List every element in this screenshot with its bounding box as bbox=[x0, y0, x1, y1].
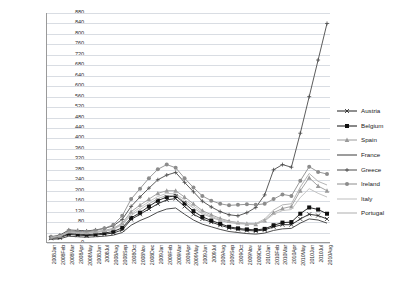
legend-label: Austria bbox=[358, 108, 380, 114]
legend-item-greece[interactable]: Greece bbox=[336, 162, 416, 177]
x-axis-tick-label: 2010Mar bbox=[283, 245, 288, 291]
x-axis-tick-label: 2008Jan bbox=[52, 245, 57, 291]
legend-label: Greece bbox=[358, 167, 381, 173]
legend-label: Belgium bbox=[358, 123, 383, 129]
legend-swatch-icon bbox=[336, 207, 358, 219]
legend-item-italy[interactable]: Italy bbox=[336, 192, 416, 207]
x-axis-tick-label: 2008Aug bbox=[114, 245, 119, 291]
x-axis-tick-label: 2008Nov bbox=[141, 245, 146, 291]
x-axis-tick-label: 2008Dec bbox=[150, 245, 155, 291]
plot-area bbox=[46, 13, 330, 243]
x-axis-tick-label: 2008Oct bbox=[132, 245, 137, 291]
legend-item-austria[interactable]: Austria bbox=[336, 104, 416, 119]
x-axis-tick-label: 2010Aug bbox=[328, 245, 333, 291]
x-axis-tick-label: 2008Mar bbox=[70, 245, 75, 291]
legend-item-france[interactable]: France bbox=[336, 148, 416, 163]
legend: AustriaBelgiumSpainFranceGreeceIrelandIt… bbox=[336, 104, 416, 221]
gridline bbox=[47, 243, 330, 244]
legend-item-belgium[interactable]: Belgium bbox=[336, 119, 416, 134]
legend-swatch-icon bbox=[336, 105, 358, 117]
x-axis-tick-label: 2010May bbox=[301, 245, 306, 291]
x-axis-tick-label: 2009Jan bbox=[159, 245, 164, 291]
series-greece bbox=[49, 21, 329, 238]
line-chart: 8808408007607206806406005605204804404003… bbox=[0, 0, 417, 296]
legend-item-spain[interactable]: Spain bbox=[336, 133, 416, 148]
legend-label: Spain bbox=[358, 137, 377, 143]
x-axis-tick-label: 2009Aug bbox=[221, 245, 226, 291]
x-axis-tick-label: 2009Nov bbox=[248, 245, 253, 291]
x-axis-tick-label: 2008Feb bbox=[61, 245, 66, 291]
x-axis-tick-label: 2009Mar bbox=[177, 245, 182, 291]
x-axis-tick-label: 2008Jun bbox=[97, 245, 102, 291]
legend-swatch-icon bbox=[336, 164, 358, 176]
legend-swatch-icon bbox=[336, 178, 358, 190]
legend-label: France bbox=[358, 152, 380, 158]
x-axis-tick-label: 2010Jan bbox=[266, 245, 271, 291]
legend-item-portugal[interactable]: Portugal bbox=[336, 206, 416, 221]
x-axis-tick-label: 2009Dec bbox=[257, 245, 262, 291]
x-axis-tick-label: 2009Jul bbox=[212, 245, 217, 291]
x-axis-tick-label: 2010Apr bbox=[292, 245, 297, 291]
legend-swatch-icon bbox=[336, 134, 358, 146]
x-axis-tick-label: 2010Feb bbox=[275, 245, 280, 291]
legend-swatch-icon bbox=[336, 193, 358, 205]
x-axis-tick-label: 2008Apr bbox=[79, 245, 84, 291]
x-axis-tick-label: 2010Jul bbox=[319, 245, 324, 291]
x-axis-tick-label: 2009Feb bbox=[168, 245, 173, 291]
x-axis-tick-label: 2010Jun bbox=[310, 245, 315, 291]
legend-swatch-icon bbox=[336, 149, 358, 161]
x-axis-tick-label: 2009Sep bbox=[230, 245, 235, 291]
legend-label: Portugal bbox=[358, 210, 384, 216]
legend-label: Ireland bbox=[358, 181, 380, 187]
x-axis-tick-label: 2008May bbox=[88, 245, 93, 291]
x-axis-tick-label: 2009Apr bbox=[186, 245, 191, 291]
x-axis-tick-label: 2008Sep bbox=[123, 245, 128, 291]
x-axis: 2008Jan2008Feb2008Mar2008Apr2008May2008J… bbox=[46, 245, 330, 295]
x-axis-tick-label: 2009Oct bbox=[239, 245, 244, 291]
legend-swatch-icon bbox=[336, 120, 358, 132]
x-axis-tick-label: 2009Jun bbox=[203, 245, 208, 291]
legend-label: Italy bbox=[358, 196, 372, 202]
series-layer bbox=[47, 13, 331, 243]
x-axis-tick-label: 2008Jul bbox=[105, 245, 110, 291]
x-axis-tick-label: 2009May bbox=[194, 245, 199, 291]
legend-item-ireland[interactable]: Ireland bbox=[336, 177, 416, 192]
